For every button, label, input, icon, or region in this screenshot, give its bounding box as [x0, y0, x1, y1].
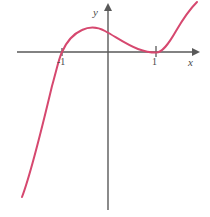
tick-label-one: 1: [152, 57, 157, 67]
curve-path: [22, 2, 197, 197]
plot-canvas: [0, 0, 210, 217]
x-axis-label: x: [188, 57, 193, 68]
math-figure-graph: y x -1 1: [0, 0, 210, 217]
tick-label-neg-one: -1: [57, 57, 65, 67]
y-axis-label: y: [93, 7, 98, 18]
